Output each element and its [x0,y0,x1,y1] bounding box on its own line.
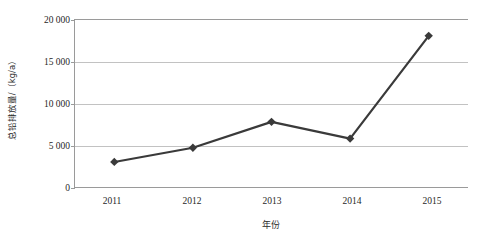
x-tick-label: 2014 [343,196,362,206]
data-point-marker [189,144,197,152]
y-axis-title-text: 总铅排放量/（kg/a） [5,55,17,139]
y-tick-mark-0 [71,188,75,189]
x-tick-label: 2011 [103,196,122,206]
line-chart: 总铅排放量/（kg/a） 20 000 15 000 10 000 5 000 … [0,0,491,252]
x-tick-label: 2012 [183,196,202,206]
data-point-marker [110,158,118,166]
y-tick-label: 0 [65,183,70,193]
y-axis-tick-labels: 20 000 15 000 10 000 5 000 0 [22,0,74,195]
y-tick-label: 10 000 [44,99,70,109]
x-axis-tick-labels: 2011 2012 2013 2014 2015 [74,196,468,212]
x-tick-label: 2015 [423,196,442,206]
y-tick-label: 5 000 [49,141,70,151]
y-tick-label: 20 000 [44,15,70,25]
y-axis-title: 总铅排放量/（kg/a） [0,0,22,195]
series-line [114,36,428,162]
x-axis-title: 年份 [74,218,468,231]
data-series-svg [75,20,468,187]
x-tick-label: 2013 [263,196,282,206]
data-point-marker [267,118,275,126]
plot-area [74,19,468,188]
y-tick-label: 15 000 [44,57,70,67]
